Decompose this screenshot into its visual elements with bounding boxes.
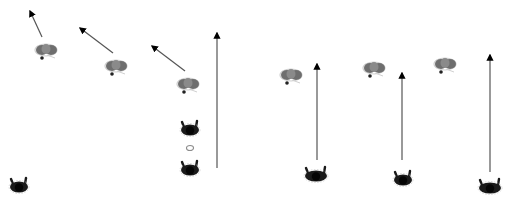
person-topdown-icon	[280, 69, 302, 85]
person-topdown-icon	[35, 44, 57, 60]
person-topdown-icon	[105, 60, 127, 76]
person-topdown-icon	[180, 161, 200, 177]
figure-layer	[9, 44, 502, 195]
movement-diagram	[0, 0, 510, 205]
person-topdown-icon	[9, 178, 29, 194]
direction-arrow-icon	[80, 28, 113, 53]
person-topdown-icon	[478, 179, 502, 195]
diagram-canvas	[0, 0, 510, 205]
arrow-layer	[30, 11, 490, 172]
person-topdown-icon	[363, 62, 385, 78]
person-topdown-icon	[393, 171, 413, 187]
person-topdown-icon	[304, 167, 328, 183]
person-topdown-icon	[180, 121, 200, 137]
person-topdown-icon	[177, 78, 199, 94]
person-topdown-icon	[434, 58, 456, 74]
person-topdown-icon	[187, 146, 194, 151]
direction-arrow-icon	[30, 11, 42, 37]
direction-arrow-icon	[152, 46, 185, 71]
